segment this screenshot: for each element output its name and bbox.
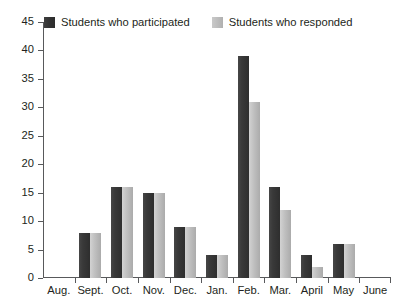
y-axis-tick: 40 xyxy=(38,50,43,51)
bar-participated xyxy=(333,244,344,278)
y-axis-tick: 45 xyxy=(38,22,43,23)
y-axis-tick-label: 15 xyxy=(22,186,34,199)
y-axis-tick: 5 xyxy=(38,250,43,251)
y-axis-tick: 25 xyxy=(38,136,43,137)
x-axis-label: Sept. xyxy=(77,284,103,297)
y-axis-line xyxy=(43,22,44,278)
y-axis-tick-label: 30 xyxy=(22,100,34,113)
y-axis-tick-label: 25 xyxy=(22,129,34,142)
x-axis-tick xyxy=(201,278,202,283)
x-axis-label: April xyxy=(301,284,323,297)
x-axis-tick xyxy=(75,278,76,283)
x-axis-tick xyxy=(264,278,265,283)
y-axis-tick: 10 xyxy=(38,221,43,222)
x-axis-label: Mar. xyxy=(269,284,291,297)
y-axis-tick-label: 35 xyxy=(22,72,34,85)
bar-group xyxy=(296,255,328,278)
bar-group xyxy=(75,233,107,279)
x-axis-tick xyxy=(233,278,234,283)
x-axis-label: Aug. xyxy=(47,284,70,297)
bar-participated xyxy=(301,255,312,278)
x-axis-label: Nov. xyxy=(143,284,165,297)
y-axis-tick: 15 xyxy=(38,193,43,194)
bar-responded xyxy=(217,255,228,278)
x-axis-tick xyxy=(170,278,171,283)
y-axis-tick: 35 xyxy=(38,79,43,80)
bar-responded xyxy=(185,227,196,278)
bar-responded xyxy=(280,210,291,278)
x-axis-label: Dec. xyxy=(174,284,197,297)
y-axis-tick: 30 xyxy=(38,107,43,108)
y-axis-tick-label: 40 xyxy=(22,43,34,56)
bar-responded xyxy=(122,187,133,278)
bar-responded xyxy=(312,267,323,278)
bar-participated xyxy=(143,193,154,278)
bar-chart: Students who participated Students who r… xyxy=(0,0,407,305)
x-axis-tick xyxy=(359,278,360,283)
plot-area: 051015202530354045 xyxy=(43,22,391,278)
bar-group xyxy=(201,255,233,278)
x-axis-tick xyxy=(296,278,297,283)
y-axis-tick-label: 45 xyxy=(22,15,34,28)
bar-participated xyxy=(269,187,280,278)
y-axis-tick-label: 0 xyxy=(28,271,34,284)
bar-group xyxy=(170,227,202,278)
y-axis-tick-label: 5 xyxy=(28,243,34,256)
bar-participated xyxy=(238,56,249,278)
bar-responded xyxy=(90,233,101,279)
bar-participated xyxy=(79,233,90,279)
bar-group xyxy=(264,187,296,278)
y-axis-tick-label: 20 xyxy=(22,157,34,170)
bar-group xyxy=(328,244,360,278)
y-axis-tick-label: 10 xyxy=(22,214,34,227)
bar-group xyxy=(233,56,265,278)
bar-participated xyxy=(111,187,122,278)
bar-responded xyxy=(249,102,260,278)
x-axis-label: Jan. xyxy=(206,284,227,297)
x-axis-tick xyxy=(106,278,107,283)
bar-responded xyxy=(344,244,355,278)
bar-participated xyxy=(174,227,185,278)
x-axis-tick xyxy=(328,278,329,283)
bar-group xyxy=(106,187,138,278)
x-axis-label: Oct. xyxy=(112,284,133,297)
x-axis-tick xyxy=(138,278,139,283)
y-axis-tick: 20 xyxy=(38,164,43,165)
y-axis-tick: 0 xyxy=(38,278,43,279)
x-axis-label: Feb. xyxy=(237,284,259,297)
bar-responded xyxy=(154,193,165,278)
x-axis-label: May xyxy=(333,284,354,297)
x-axis-label: June xyxy=(363,284,387,297)
x-axis-tick xyxy=(390,278,391,283)
bar-participated xyxy=(206,255,217,278)
bar-group xyxy=(138,193,170,278)
